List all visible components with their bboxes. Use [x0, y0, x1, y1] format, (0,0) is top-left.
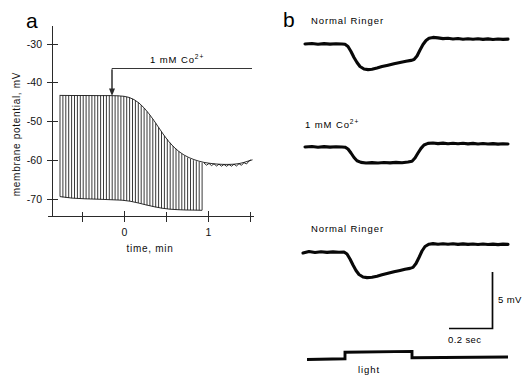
figure-container: a -30 -40 -50 -60 -70 0 1 t	[0, 0, 524, 380]
y-tick-label: -60	[27, 154, 42, 166]
scale-bar-horizontal-label: 0.2 sec	[448, 334, 481, 345]
panel-a-x-axis-title: time, min	[127, 243, 174, 254]
panel-a-y-axis-title: membrane potential, mV	[11, 72, 22, 196]
panel-b-trace-1-label: Normal Ringer	[311, 15, 384, 26]
y-tick-label: -70	[27, 193, 42, 205]
x-tick-label: 0	[122, 226, 128, 238]
light-stimulus-label: light	[358, 364, 380, 375]
panel-a-letter: a	[26, 9, 38, 32]
y-tick-label: -40	[27, 76, 42, 88]
panel-b-trace-3-label: Normal Ringer	[311, 223, 384, 234]
figure-svg: a -30 -40 -50 -60 -70 0 1 t	[0, 0, 524, 380]
panel-b-letter: b	[283, 8, 295, 31]
scale-bar-vertical-label: 5 mV	[498, 294, 522, 305]
y-tick-label: -30	[27, 38, 42, 50]
y-tick-label: -50	[27, 115, 42, 127]
x-tick-label: 1	[206, 226, 212, 238]
figure-background	[0, 0, 524, 380]
